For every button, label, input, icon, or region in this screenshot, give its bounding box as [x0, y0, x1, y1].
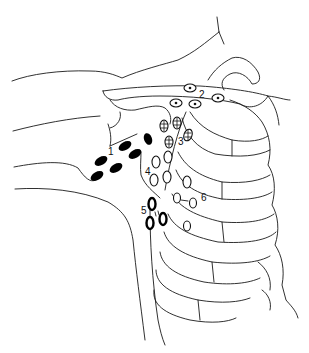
- node-group-5: [147, 198, 167, 229]
- lymph-node-bold: [160, 213, 167, 225]
- lymph-node-open: [163, 171, 171, 183]
- lymph-node-open: [184, 221, 191, 231]
- node-group-3: [160, 117, 194, 148]
- lymph-node-solid: [93, 154, 109, 168]
- lymph-node-hatched: [165, 136, 173, 148]
- lymph-node-bold: [149, 198, 156, 210]
- lymph-node-solid: [142, 132, 154, 146]
- lymph-node-solid: [108, 161, 124, 175]
- lymph-node-open: [150, 174, 158, 186]
- rib-cage: [150, 100, 298, 345]
- lymph-node-open: [152, 156, 160, 168]
- label-group-5: 5: [141, 205, 147, 216]
- diagram-svg: 1 2 3 4 5 6: [0, 0, 309, 353]
- lymph-node-open: [183, 176, 191, 188]
- lymph-node-solid: [117, 139, 133, 153]
- lymph-node-open: [164, 151, 172, 163]
- label-group-6: 6: [201, 192, 207, 203]
- lymph-node-bold: [147, 217, 154, 229]
- node-group-4: [150, 151, 191, 188]
- label-group-4: 4: [145, 166, 151, 177]
- label-group-2: 2: [199, 89, 205, 100]
- lymph-node-open: [190, 198, 197, 208]
- lymph-node-open: [174, 193, 181, 203]
- label-group-3: 3: [178, 136, 184, 147]
- lymph-node-hatched: [173, 117, 181, 129]
- label-group-1: 1: [108, 146, 114, 157]
- anatomical-diagram: 1 2 3 4 5 6: [0, 0, 309, 353]
- lymph-node-hatched: [182, 128, 194, 142]
- lymph-node-hatched: [160, 120, 168, 132]
